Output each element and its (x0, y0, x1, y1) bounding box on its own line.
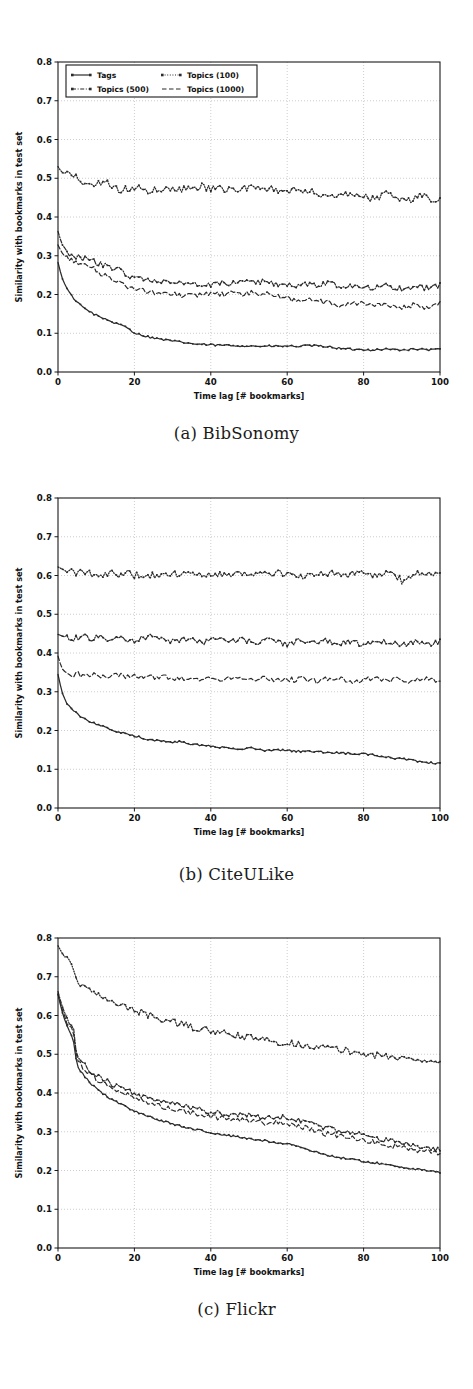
svg-text:0.5: 0.5 (37, 173, 52, 183)
svg-text:0.7: 0.7 (37, 96, 52, 106)
svg-text:Similarity with bookmarks in t: Similarity with bookmarks in test set (14, 1007, 24, 1178)
svg-text:40: 40 (205, 813, 217, 823)
svg-text:20: 20 (128, 377, 140, 387)
svg-text:40: 40 (205, 1253, 217, 1263)
svg-text:0.1: 0.1 (37, 764, 52, 774)
svg-text:0.8: 0.8 (37, 493, 52, 503)
svg-text:0.4: 0.4 (37, 648, 52, 658)
panel-citeulike: 0.00.10.20.30.40.50.60.70.8020406080100T… (0, 470, 473, 910)
svg-text:100: 100 (431, 1253, 449, 1263)
panel-flickr: 0.00.10.20.30.40.50.60.70.8020406080100T… (0, 910, 473, 1389)
svg-text:100: 100 (431, 813, 449, 823)
chart-svg-flickr: 0.00.10.20.30.40.50.60.70.8020406080100T… (0, 910, 473, 1310)
svg-text:80: 80 (358, 1253, 370, 1263)
chart-svg-citeulike: 0.00.10.20.30.40.50.60.70.8020406080100T… (0, 470, 473, 870)
svg-text:Time lag [# bookmarks]: Time lag [# bookmarks] (194, 1267, 305, 1277)
svg-text:0.2: 0.2 (37, 290, 52, 300)
svg-text:20: 20 (128, 813, 140, 823)
svg-text:0.4: 0.4 (37, 1088, 52, 1098)
svg-text:0.5: 0.5 (37, 1049, 52, 1059)
svg-text:0.6: 0.6 (37, 571, 52, 581)
svg-text:0.0: 0.0 (37, 803, 52, 813)
svg-text:0.3: 0.3 (37, 1127, 52, 1137)
svg-text:Time lag [# bookmarks]: Time lag [# bookmarks] (194, 391, 305, 401)
svg-text:Similarity with bookmarks in t: Similarity with bookmarks in test set (14, 131, 24, 302)
svg-text:0.0: 0.0 (37, 367, 52, 377)
svg-text:0.5: 0.5 (37, 609, 52, 619)
svg-text:0.8: 0.8 (37, 57, 52, 67)
svg-text:0.2: 0.2 (37, 1166, 52, 1176)
svg-text:0: 0 (55, 813, 61, 823)
svg-text:80: 80 (358, 813, 370, 823)
svg-text:0.4: 0.4 (37, 212, 52, 222)
svg-text:Tags: Tags (97, 71, 117, 80)
svg-text:100: 100 (431, 377, 449, 387)
svg-text:Topics (500): Topics (500) (97, 85, 149, 94)
figure-stack: 0.00.10.20.30.40.50.60.70.8020406080100T… (0, 0, 473, 1389)
svg-text:40: 40 (205, 377, 217, 387)
svg-text:0: 0 (55, 1253, 61, 1263)
caption-b: (b) CiteULike (0, 865, 473, 884)
svg-text:20: 20 (128, 1253, 140, 1263)
svg-text:0.2: 0.2 (37, 726, 52, 736)
svg-text:Topics (100): Topics (100) (187, 71, 239, 80)
svg-text:0.1: 0.1 (37, 328, 52, 338)
svg-text:Topics (1000): Topics (1000) (187, 85, 244, 94)
svg-text:60: 60 (281, 1253, 293, 1263)
svg-text:0.3: 0.3 (37, 251, 52, 261)
plot-bibsonomy: 0.00.10.20.30.40.50.60.70.8020406080100T… (0, 0, 473, 420)
svg-text:Time lag [# bookmarks]: Time lag [# bookmarks] (194, 827, 305, 837)
svg-text:80: 80 (358, 377, 370, 387)
caption-a: (a) BibSonomy (0, 424, 473, 443)
svg-text:0.6: 0.6 (37, 1011, 52, 1021)
plot-flickr: 0.00.10.20.30.40.50.60.70.8020406080100T… (0, 910, 473, 1310)
svg-text:60: 60 (281, 377, 293, 387)
svg-text:0.7: 0.7 (37, 532, 52, 542)
panel-bibsonomy: 0.00.10.20.30.40.50.60.70.8020406080100T… (0, 0, 473, 470)
svg-text:0.6: 0.6 (37, 135, 52, 145)
svg-text:60: 60 (281, 813, 293, 823)
svg-text:0.1: 0.1 (37, 1204, 52, 1214)
chart-svg-bibsonomy: 0.00.10.20.30.40.50.60.70.8020406080100T… (0, 0, 473, 420)
svg-text:Similarity with bookmarks in t: Similarity with bookmarks in test set (14, 567, 24, 738)
caption-c: (c) Flickr (0, 1300, 473, 1319)
svg-text:0.8: 0.8 (37, 933, 52, 943)
svg-text:0.3: 0.3 (37, 687, 52, 697)
plot-citeulike: 0.00.10.20.30.40.50.60.70.8020406080100T… (0, 470, 473, 870)
svg-text:0.0: 0.0 (37, 1243, 52, 1253)
svg-text:0: 0 (55, 377, 61, 387)
svg-text:0.7: 0.7 (37, 972, 52, 982)
